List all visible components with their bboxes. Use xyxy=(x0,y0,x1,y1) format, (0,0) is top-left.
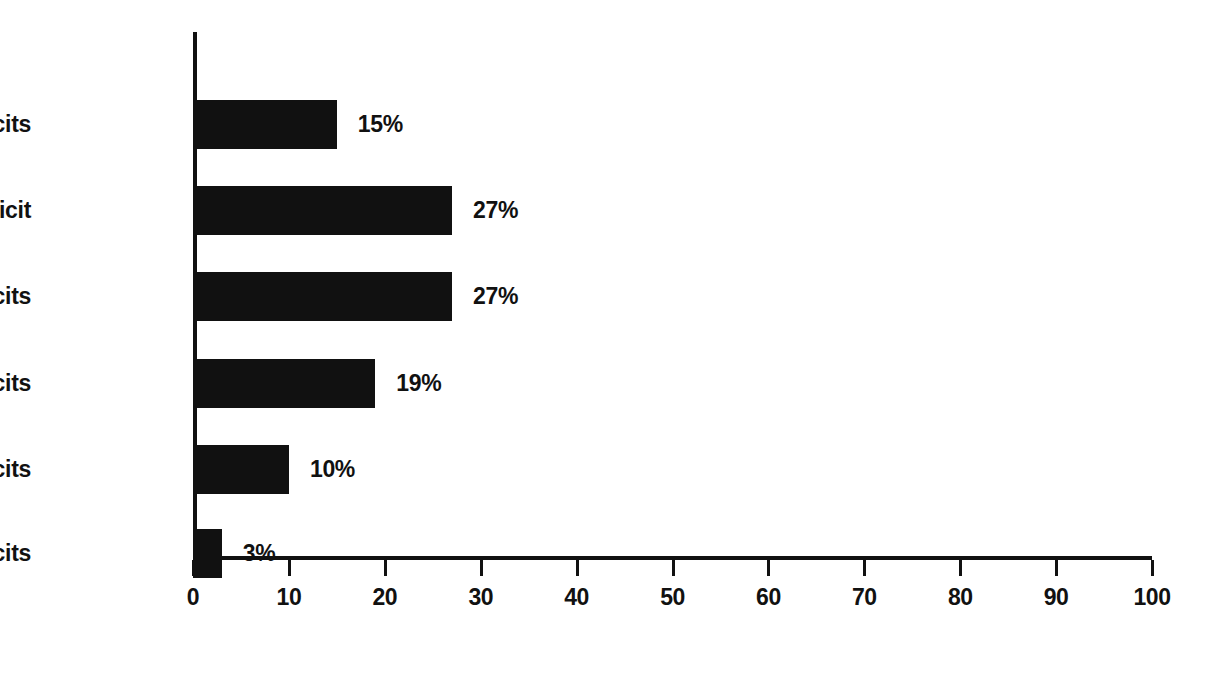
plot-area: 0102030405060708090100 15%27%27%19%10%3% xyxy=(193,32,1152,556)
x-axis-tick-label: 80 xyxy=(948,584,973,611)
category-label: 5 deficits xyxy=(0,540,31,567)
x-axis-tick xyxy=(576,560,579,576)
x-axis-tick xyxy=(959,560,962,576)
bar-value-label: 27% xyxy=(473,283,518,310)
x-axis-tick xyxy=(767,560,770,576)
bar xyxy=(193,272,452,321)
x-axis-tick xyxy=(863,560,866,576)
bar xyxy=(193,359,375,408)
x-axis-tick-label: 10 xyxy=(277,584,302,611)
bar xyxy=(193,445,289,494)
x-axis-tick-label: 100 xyxy=(1134,584,1171,611)
x-axis-tick-label: 60 xyxy=(756,584,781,611)
bar xyxy=(193,529,222,578)
x-axis-tick-label: 70 xyxy=(852,584,877,611)
bar-value-label: 27% xyxy=(473,197,518,224)
x-axis-tick-label: 90 xyxy=(1044,584,1069,611)
x-axis-tick xyxy=(1055,560,1058,576)
bar-value-label: 10% xyxy=(310,456,355,483)
bar xyxy=(193,186,452,235)
x-axis-tick xyxy=(288,560,291,576)
x-axis-tick-label: 0 xyxy=(187,584,199,611)
bar-chart: 0102030405060708090100 15%27%27%19%10%3%… xyxy=(0,0,1212,687)
bar-value-label: 3% xyxy=(243,540,276,567)
bar-value-label: 19% xyxy=(396,370,441,397)
x-axis-tick xyxy=(1151,560,1154,576)
bar xyxy=(193,100,337,149)
category-label: 1 deficit xyxy=(0,197,31,224)
bar-value-label: 15% xyxy=(358,111,403,138)
category-label: 4 deficits xyxy=(0,456,31,483)
x-axis-tick-label: 20 xyxy=(373,584,398,611)
x-axis-tick xyxy=(480,560,483,576)
category-label: 2 deficits xyxy=(0,283,31,310)
x-axis-tick-label: 50 xyxy=(660,584,685,611)
x-axis-tick-label: 30 xyxy=(468,584,493,611)
category-label: 3 deficits xyxy=(0,370,31,397)
x-axis-tick-label: 40 xyxy=(564,584,589,611)
x-axis-tick xyxy=(672,560,675,576)
x-axis-tick xyxy=(384,560,387,576)
category-label: 0 deficits xyxy=(0,111,31,138)
